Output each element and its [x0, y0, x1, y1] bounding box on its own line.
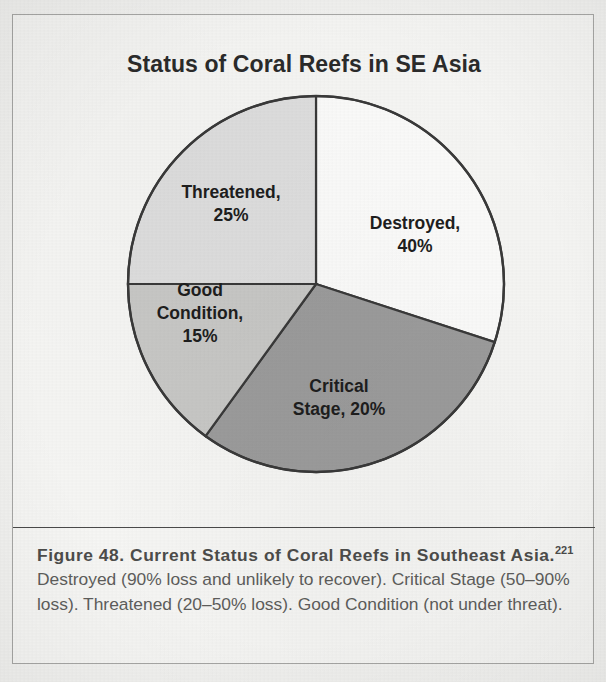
chart-title: Status of Coral Reefs in SE Asia	[13, 51, 595, 78]
scanned-page: Status of Coral Reefs in SE Asia	[0, 0, 606, 682]
pie-label-threatened: Threatened, 25%	[156, 181, 306, 227]
caption-footnote-ref: 221	[555, 544, 573, 556]
pie-label-destroyed: Destroyed, 40%	[339, 212, 491, 258]
figure-caption: Figure 48. Current Status of Coral Reefs…	[37, 543, 577, 616]
pie-chart: Destroyed, 40% Critical Stage, 20% Good …	[126, 94, 506, 474]
figure-frame: Status of Coral Reefs in SE Asia	[12, 14, 594, 664]
pie-chart-region: Status of Coral Reefs in SE Asia	[13, 15, 595, 527]
caption-body: Destroyed (90% loss and unlikely to reco…	[37, 569, 570, 613]
pie-label-critical-stage: Critical Stage, 20%	[259, 375, 419, 421]
caption-lead: Figure 48. Current Status of Coral Reefs…	[37, 545, 555, 565]
pie-label-good-condition: Good Condition, 15%	[132, 279, 268, 348]
caption-divider	[13, 527, 595, 528]
